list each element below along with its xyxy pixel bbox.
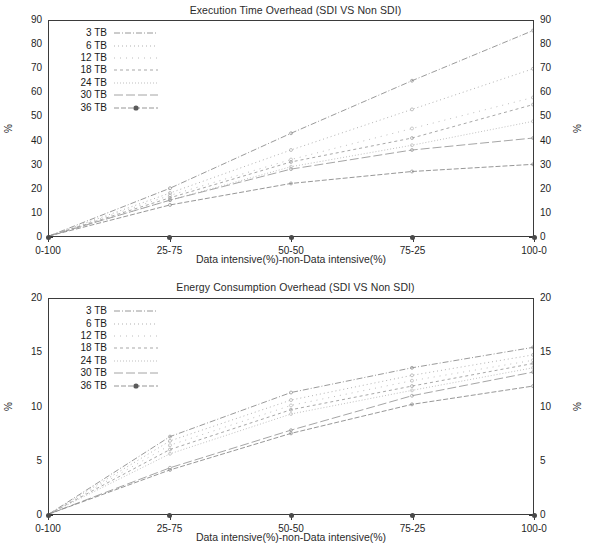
legend-line-sample	[114, 330, 158, 342]
legend-line-sample	[114, 342, 158, 354]
x-axis-data-point-marker	[167, 235, 172, 240]
y-tick-label: 30	[16, 160, 42, 170]
legend-line-sample	[114, 89, 158, 101]
legend-item-label: 30 TB	[61, 89, 107, 101]
series-line	[49, 386, 533, 514]
y-tick-label: 0	[16, 510, 42, 520]
legend-item-label: 18 TB	[61, 64, 107, 76]
x-axis-label-energy-consumption: Data intensive(%)-non-Data intensive(%)	[48, 531, 534, 543]
legend-line-sample	[114, 318, 158, 330]
legend-item-label: 12 TB	[61, 52, 107, 64]
y-tick-label: 15	[16, 347, 42, 357]
x-axis-label-execution-time: Data intensive(%)-non-Data intensive(%)	[48, 253, 534, 265]
series-line	[49, 138, 533, 236]
y-tick-label: 80	[540, 39, 566, 49]
y-tick-label: 60	[540, 87, 566, 97]
chart-title-execution-time: Execution Time Overhead (SDI VS Non SDI)	[0, 4, 591, 16]
series-point-marker	[532, 103, 533, 106]
y-tick-label: 20	[16, 293, 42, 303]
legend-item-label: 30 TB	[61, 367, 107, 379]
y-tick-label: 20	[540, 184, 566, 194]
x-axis-data-point-marker	[532, 235, 537, 240]
legend-item-label: 12 TB	[61, 330, 107, 342]
series-line	[49, 121, 533, 236]
plot-area-energy-consumption: 3 TB6 TB12 TB18 TB24 TB30 TB36 TB	[48, 298, 534, 515]
legend-line-sample	[114, 52, 158, 64]
x-axis-data-point-marker	[289, 513, 294, 518]
legend-circle-marker-icon	[133, 105, 138, 110]
legend-line-sample	[114, 64, 158, 76]
legend-item: 30 TB	[61, 367, 158, 379]
legend-line-sample	[114, 355, 158, 367]
y-tick-label: 10	[540, 208, 566, 218]
y-tick-label: 10	[16, 208, 42, 218]
legend-execution-time: 3 TB6 TB12 TB18 TB24 TB30 TB36 TB	[61, 27, 158, 114]
series-point-marker	[411, 108, 414, 111]
x-axis-data-point-marker	[410, 513, 415, 518]
chart-title-energy-consumption: Energy Consumption Overhead (SDI VS Non …	[0, 281, 591, 293]
legend-item: 3 TB	[61, 27, 158, 39]
y-axis-ticks-right-execution-time: 9080706050403020100	[540, 20, 566, 237]
y-tick-label: 0	[540, 510, 566, 520]
legend-line-sample	[114, 305, 158, 317]
y-axis-ticks-right-energy-consumption: 20151050	[540, 298, 566, 515]
x-axis-data-point-marker	[46, 235, 51, 240]
legend-line-sample	[114, 27, 158, 39]
legend-item: 36 TB	[61, 101, 158, 113]
legend-item: 6 TB	[61, 39, 158, 51]
legend-item-label: 18 TB	[61, 342, 107, 354]
x-axis-data-point-marker	[167, 513, 172, 518]
y-tick-label: 60	[16, 87, 42, 97]
x-axis-data-point-marker	[532, 513, 537, 518]
y-tick-label: 20	[16, 184, 42, 194]
plot-area-execution-time: 3 TB6 TB12 TB18 TB24 TB30 TB36 TB	[48, 20, 534, 237]
legend-item-label: 6 TB	[61, 318, 107, 330]
legend-item-label: 36 TB	[61, 102, 107, 114]
series-point-marker	[290, 404, 293, 407]
y-tick-label: 0	[540, 232, 566, 242]
legend-item: 24 TB	[61, 77, 158, 89]
y-tick-label: 30	[540, 160, 566, 170]
legend-item: 12 TB	[61, 330, 158, 342]
series-point-marker	[532, 120, 533, 123]
y-tick-label: 50	[540, 111, 566, 121]
plot-wrap-energy-consumption: % % 20151050 20151050 3 TB6 TB12 TB18 TB…	[0, 298, 591, 546]
y-tick-label: 50	[16, 111, 42, 121]
series-point-marker	[411, 374, 414, 377]
legend-item-label: 3 TB	[61, 305, 107, 317]
y-axis-ticks-left-execution-time: 9080706050403020100	[16, 20, 42, 237]
x-axis-data-point-marker	[410, 235, 415, 240]
y-axis-ticks-left-energy-consumption: 20151050	[16, 298, 42, 515]
legend-line-sample	[114, 77, 158, 89]
y-tick-label: 15	[540, 347, 566, 357]
energy-consumption-chart-figure: Energy Consumption Overhead (SDI VS Non …	[0, 276, 591, 546]
legend-item-label: 24 TB	[61, 77, 107, 89]
legend-item: 3 TB	[61, 305, 158, 317]
legend-item-label: 6 TB	[61, 40, 107, 52]
y-tick-label: 10	[540, 402, 566, 412]
x-axis-data-point-marker	[289, 235, 294, 240]
y-axis-label-left-energy-consumption: %	[3, 397, 14, 417]
y-tick-label: 5	[540, 456, 566, 466]
plot-wrap-execution-time: % % 9080706050403020100 9080706050403020…	[0, 20, 591, 276]
legend-item-label: 36 TB	[61, 380, 107, 392]
legend-line-sample	[114, 367, 158, 379]
y-tick-label: 40	[16, 136, 42, 146]
series-line	[49, 164, 533, 236]
legend-line-sample	[114, 380, 158, 392]
legend-item: 24 TB	[61, 355, 158, 367]
y-tick-label: 0	[16, 232, 42, 242]
y-tick-label: 90	[540, 15, 566, 25]
legend-circle-marker-icon	[133, 383, 138, 388]
legend-item: 18 TB	[61, 342, 158, 354]
series-point-marker	[169, 444, 172, 447]
series-point-marker	[290, 149, 293, 152]
legend-item-label: 3 TB	[61, 27, 107, 39]
x-axis-data-point-marker	[46, 513, 51, 518]
legend-line-sample	[114, 40, 158, 52]
y-tick-label: 90	[16, 15, 42, 25]
y-axis-label-right-energy-consumption: %	[572, 397, 583, 417]
series-point-marker	[411, 127, 414, 130]
y-tick-label: 70	[540, 63, 566, 73]
execution-time-chart-figure: Execution Time Overhead (SDI VS Non SDI)…	[0, 0, 591, 276]
